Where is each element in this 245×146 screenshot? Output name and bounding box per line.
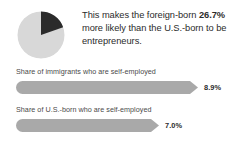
bar-line-us-born: 7.0% — [16, 118, 229, 132]
bar-row-immigrants: Share of immigrants who are self-employe… — [16, 67, 229, 94]
pie-chart-container — [0, 6, 82, 64]
summary-block: This makes the foreign-born 26.7% more l… — [0, 6, 245, 64]
bar-row-us-born: Share of U.S.-born who are self-employed… — [16, 105, 229, 132]
bar-shape-immigrants — [16, 81, 198, 94]
headline-emphasis-value: 26.7% — [199, 10, 225, 20]
bar-value-immigrants: 8.9% — [204, 83, 221, 92]
infographic-root: This makes the foreign-born 26.7% more l… — [0, 0, 245, 146]
headline-part-before: This makes the foreign-born — [82, 10, 199, 20]
bar-value-us-born: 7.0% — [165, 121, 182, 130]
bar-line-immigrants: 8.9% — [16, 80, 229, 94]
pie-chart — [17, 11, 65, 59]
bar-label-immigrants: Share of immigrants who are self-employe… — [16, 67, 229, 76]
bar-track-us-born — [16, 119, 159, 132]
headline-part-after: more likely than the U.S.-born to be ent… — [82, 23, 226, 46]
bar-label-us-born: Share of U.S.-born who are self-employed — [16, 105, 229, 114]
bar-track-immigrants — [16, 81, 198, 94]
headline-text: This makes the foreign-born 26.7% more l… — [82, 6, 245, 49]
bar-shape-us-born — [16, 119, 159, 132]
